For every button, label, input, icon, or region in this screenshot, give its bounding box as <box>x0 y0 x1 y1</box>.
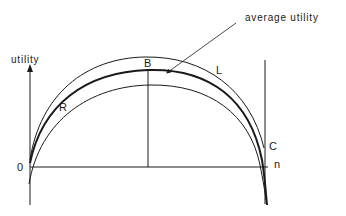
curve-r-label: R <box>59 102 67 113</box>
utility-diagram: average utility utility 0 n B C L R <box>0 0 346 216</box>
point-b-label: B <box>144 58 151 69</box>
origin-label: 0 <box>17 162 23 173</box>
curve-l-label: L <box>216 65 222 76</box>
y-axis-label: utility <box>11 55 39 65</box>
diagram-canvas <box>0 0 346 216</box>
x-axis-label: n <box>274 159 280 170</box>
annotation-leader-line <box>168 23 236 72</box>
y-axis-arrowhead-icon <box>27 64 33 72</box>
point-c-label: C <box>269 141 277 152</box>
annotation-average-utility: average utility <box>245 13 319 23</box>
